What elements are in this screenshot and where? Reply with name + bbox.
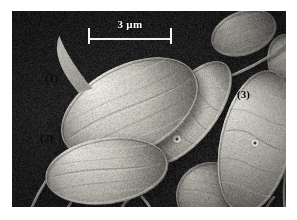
micrograph-image: [12, 11, 286, 207]
sem-figure: 3 µm (1) (2) (3): [0, 0, 297, 220]
micrograph-plate: 3 µm (1) (2) (3): [12, 11, 286, 207]
